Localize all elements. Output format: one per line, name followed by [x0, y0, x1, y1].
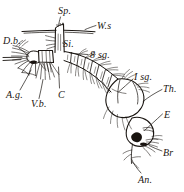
label-ws: W.s — [97, 21, 111, 31]
leader-lines — [19, 17, 163, 173]
eye — [131, 127, 153, 142]
label-isg: I sg. — [134, 72, 152, 82]
anal-gills — [18, 61, 37, 76]
label-th: Th. — [163, 84, 177, 94]
label-8sg: 8 sg. — [90, 50, 110, 60]
head — [123, 117, 163, 168]
label-br: Br — [163, 148, 173, 158]
label-ag: A.g. — [6, 90, 23, 100]
antenna — [123, 144, 141, 168]
label-si: Si. — [63, 39, 74, 49]
label-sp: Sp. — [58, 6, 71, 16]
label-vb: V.b. — [31, 99, 47, 109]
label-db: D.b. — [3, 36, 21, 46]
label-an: An. — [138, 175, 152, 185]
siphon — [46, 23, 65, 53]
mouth-brush — [140, 135, 162, 156]
larva-drawing — [0, 0, 184, 192]
mosquito-larva-figure — [0, 0, 184, 192]
label-e: E — [164, 110, 170, 120]
ventral-brush — [36, 63, 59, 80]
label-c: C — [58, 90, 65, 100]
eighth-segment — [39, 51, 54, 73]
water-surface-line — [22, 30, 95, 33]
